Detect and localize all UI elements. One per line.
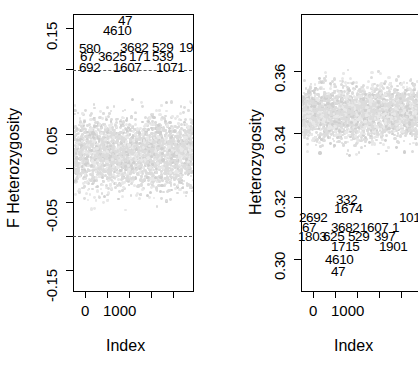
data-point xyxy=(367,109,369,111)
data-point xyxy=(323,92,326,95)
data-point xyxy=(191,132,194,135)
data-point xyxy=(397,116,400,119)
data-point xyxy=(326,132,329,135)
data-point xyxy=(404,92,407,95)
data-point xyxy=(322,108,324,110)
data-point xyxy=(401,82,403,84)
data-point xyxy=(163,117,165,119)
data-point xyxy=(347,69,349,71)
data-point xyxy=(177,184,180,187)
data-point xyxy=(334,86,337,89)
data-point xyxy=(397,75,400,78)
left-x-tick-mark xyxy=(85,291,86,298)
data-point xyxy=(182,111,185,114)
left-y-tick-label-3: -0.15 xyxy=(44,250,59,302)
data-point xyxy=(176,163,179,166)
data-point xyxy=(168,121,171,124)
data-point xyxy=(382,87,385,90)
data-point xyxy=(140,193,142,195)
data-point xyxy=(106,199,109,202)
data-point xyxy=(84,109,87,112)
data-point xyxy=(366,86,369,89)
left-y-tick-label-1: 0.05 xyxy=(44,113,59,155)
data-point xyxy=(155,171,158,174)
data-point xyxy=(409,111,412,114)
data-point xyxy=(384,112,387,115)
data-point xyxy=(313,109,316,112)
data-point xyxy=(384,122,387,125)
data-point xyxy=(355,142,358,145)
data-point xyxy=(191,149,193,151)
right-x-tick-mark xyxy=(335,291,336,298)
data-point xyxy=(166,124,169,127)
right-x-tick-mark xyxy=(379,291,380,298)
data-point xyxy=(347,82,350,85)
data-point xyxy=(101,160,104,163)
data-point xyxy=(329,142,332,145)
data-point xyxy=(162,129,165,132)
data-point xyxy=(73,126,76,129)
data-point xyxy=(391,93,393,95)
data-point xyxy=(181,187,184,190)
data-point xyxy=(344,118,347,121)
right-x-tick-mark xyxy=(313,291,314,298)
data-point xyxy=(100,188,102,190)
data-point xyxy=(306,98,309,101)
data-point xyxy=(170,157,173,160)
data-point xyxy=(137,161,140,164)
data-point xyxy=(80,144,83,147)
data-point xyxy=(318,151,321,154)
data-point xyxy=(185,191,188,194)
data-point xyxy=(339,133,341,135)
data-point xyxy=(155,131,157,133)
data-point xyxy=(390,108,393,111)
data-point xyxy=(367,122,370,125)
data-point xyxy=(189,186,192,189)
data-point xyxy=(408,123,411,126)
data-point xyxy=(191,129,194,132)
right-x-axis-title: Index xyxy=(334,338,373,354)
left-y-tick-mark xyxy=(66,270,73,271)
outlier-label: 19 xyxy=(179,41,193,55)
data-point xyxy=(91,188,94,191)
data-point xyxy=(414,138,417,141)
data-point xyxy=(409,79,412,82)
data-point xyxy=(121,195,124,198)
data-point xyxy=(123,181,126,184)
data-point xyxy=(73,113,76,116)
data-point xyxy=(159,176,162,179)
data-point xyxy=(321,144,324,147)
data-point xyxy=(150,149,153,152)
data-point xyxy=(411,97,414,100)
data-point xyxy=(95,125,97,127)
data-point xyxy=(147,172,150,175)
data-point xyxy=(334,115,337,118)
data-point xyxy=(186,182,189,185)
data-point xyxy=(109,127,111,129)
data-point xyxy=(141,188,144,191)
data-point xyxy=(89,173,92,176)
data-point xyxy=(307,127,310,130)
data-point xyxy=(395,78,398,81)
data-point xyxy=(336,141,338,143)
left-y-axis-title: F Heterozygosity xyxy=(6,68,22,228)
data-point xyxy=(403,140,406,143)
data-point xyxy=(158,109,160,111)
data-point xyxy=(349,136,352,139)
data-point xyxy=(393,137,396,140)
outlier-label: 1071 xyxy=(156,61,184,75)
data-point xyxy=(73,109,76,112)
data-point xyxy=(351,91,354,94)
left-y-tick-mark xyxy=(66,236,73,237)
data-point xyxy=(367,80,370,83)
data-point xyxy=(314,83,316,85)
data-point xyxy=(180,105,182,107)
data-point xyxy=(328,105,331,108)
data-point xyxy=(335,95,338,98)
data-point xyxy=(173,178,176,181)
data-point xyxy=(134,123,137,126)
data-point xyxy=(385,150,388,153)
data-point xyxy=(336,136,339,139)
data-point xyxy=(188,170,191,173)
data-point xyxy=(369,135,371,137)
